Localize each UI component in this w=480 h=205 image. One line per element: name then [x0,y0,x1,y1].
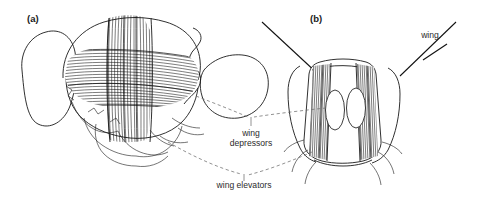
wing-depressors-callout-line1: wing [241,128,260,138]
abdomen-outline [200,55,268,118]
wing-elevators-callout-label: wing elevators [216,180,272,190]
panel-label-a: (a) [27,13,39,24]
wing-label-leader [423,44,447,60]
wing-callout-label: wing [420,30,439,40]
figure-root: (a) (b) wing wing depressors wing elevat… [0,0,480,205]
wing-depressors-callout-line2: depressors [230,138,273,148]
longitudinal-muscle-oval-right [347,88,366,128]
panel-label-b: (b) [310,13,322,24]
longitudinal-muscle-oval-left [326,90,345,130]
elevator-leader-from-b [248,152,312,175]
wing-line-left [262,22,318,74]
anatomy-diagram-canvas: (a) (b) wing wing depressors wing elevat… [0,0,480,205]
panel-b-group [262,22,456,185]
